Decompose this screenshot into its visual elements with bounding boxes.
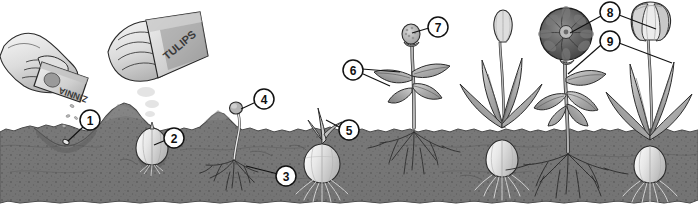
soil-bed (0, 103, 698, 203)
callout-9[interactable]: 9 (600, 31, 620, 51)
tulip-closed-bud (494, 10, 512, 42)
callout-8[interactable]: 8 (600, 2, 620, 22)
zinnia-open-bloom (538, 6, 594, 65)
tulip-bud-bulb (486, 140, 518, 177)
callout-3-label: 3 (283, 170, 290, 184)
callout-3[interactable]: 3 (276, 166, 296, 186)
leader-9b (619, 43, 672, 63)
tulip-open-bulb (634, 146, 666, 183)
callout-5[interactable]: 5 (339, 120, 359, 140)
leader-4 (241, 102, 256, 109)
bulb-drop-dust (137, 87, 159, 117)
callout-2[interactable]: 2 (164, 128, 184, 148)
callout-4[interactable]: 4 (254, 89, 274, 109)
zinnia-packet: ZINNIA (34, 62, 89, 104)
falling-zinnia-seeds (62, 104, 78, 128)
zinnia-bloom-leaves (534, 71, 606, 126)
callout-5-label: 5 (346, 124, 353, 138)
callout-6-label: 6 (350, 64, 357, 78)
sprouting-seed-head (230, 102, 243, 114)
callout-2-label: 2 (171, 132, 178, 146)
sprouting-bulb-body (304, 144, 340, 183)
callout-1-label: 1 (87, 114, 94, 128)
callout-4-label: 4 (261, 93, 268, 107)
illustration-canvas: ZINNIA TULIPS (0, 0, 698, 208)
illustration-svg: ZINNIA TULIPS (0, 0, 698, 208)
zinnia-flower-bud (402, 24, 420, 47)
callout-9-label: 9 (607, 35, 614, 49)
callout-1[interactable]: 1 (80, 110, 100, 130)
callout-6[interactable]: 6 (343, 60, 363, 80)
callout-8-label: 8 (607, 6, 614, 20)
callout-7[interactable]: 7 (428, 17, 448, 37)
callout-7-label: 7 (435, 21, 442, 35)
